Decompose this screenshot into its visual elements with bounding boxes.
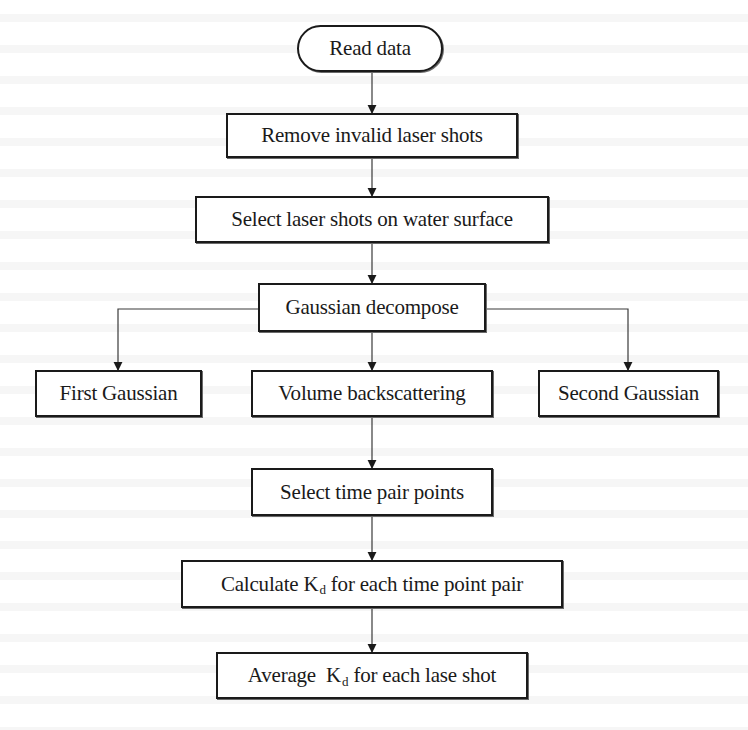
node-first-gaussian: First Gaussian [35, 370, 202, 417]
node-label-post: for each time point pair [326, 572, 523, 597]
node-gaussian-decompose: Gaussian decompose [258, 283, 486, 332]
node-label-subscript: d [342, 674, 348, 690]
node-label-pre: Average K [248, 663, 341, 688]
node-label-post: for each lase shot [348, 663, 496, 688]
node-select-laser-shots-water-surface: Select laser shots on water surface [195, 196, 549, 243]
node-label: Remove invalid laser shots [261, 123, 483, 148]
node-label-subscript: d [319, 582, 325, 598]
node-label: First Gaussian [60, 381, 178, 406]
node-select-time-pair-points: Select time pair points [251, 468, 493, 516]
node-average-kd: Average Kd for each lase shot [216, 652, 528, 699]
node-label: Second Gaussian [558, 381, 699, 406]
node-remove-invalid-laser-shots: Remove invalid laser shots [226, 113, 518, 158]
node-second-gaussian: Second Gaussian [538, 370, 719, 417]
node-label: Volume backscattering [278, 381, 465, 406]
node-label: Read data [329, 36, 411, 61]
node-calculate-kd: Calculate Kd for each time point pair [181, 560, 563, 608]
node-label-pre: Calculate K [221, 572, 319, 597]
node-read-data: Read data [297, 25, 443, 72]
arrow-decompose-to-first [118, 309, 258, 370]
node-label: Gaussian decompose [285, 295, 458, 320]
node-volume-backscattering: Volume backscattering [251, 370, 493, 417]
arrow-decompose-to-second [486, 309, 628, 370]
flowchart-connectors [0, 0, 748, 730]
node-label: Select time pair points [280, 480, 464, 505]
node-label: Select laser shots on water surface [231, 207, 513, 232]
